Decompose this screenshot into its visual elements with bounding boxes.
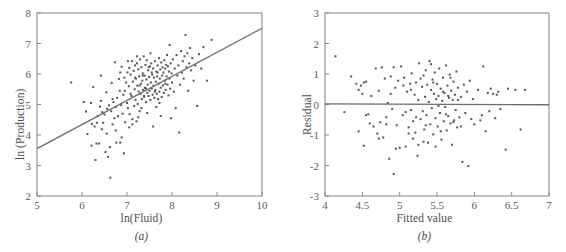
x-tick-label: 8 xyxy=(169,199,175,211)
data-point xyxy=(169,88,171,90)
data-point xyxy=(147,84,149,86)
x-tick-label: 5 xyxy=(34,199,40,211)
data-point xyxy=(153,97,155,99)
data-point xyxy=(455,71,457,73)
plot-frame xyxy=(37,13,262,196)
data-point xyxy=(184,55,186,57)
data-point xyxy=(505,149,507,151)
data-point xyxy=(178,132,180,134)
data-point xyxy=(417,144,419,146)
data-point xyxy=(139,58,141,60)
data-point xyxy=(119,142,121,144)
data-point xyxy=(429,60,431,62)
data-point xyxy=(457,87,459,89)
data-point xyxy=(115,129,117,131)
data-point xyxy=(395,148,397,150)
data-point xyxy=(104,151,106,153)
data-point xyxy=(408,132,410,134)
data-point xyxy=(420,118,422,120)
data-point xyxy=(400,65,402,67)
data-point xyxy=(488,110,490,112)
data-point xyxy=(426,114,428,116)
data-point xyxy=(113,101,115,103)
data-point xyxy=(496,94,498,96)
data-point xyxy=(412,120,414,122)
data-point xyxy=(417,99,419,101)
data-point xyxy=(385,116,387,118)
data-point xyxy=(170,62,172,64)
data-point xyxy=(437,105,439,107)
data-point xyxy=(156,75,158,77)
data-point xyxy=(434,71,436,73)
data-point xyxy=(152,94,154,96)
data-point xyxy=(123,152,125,154)
data-point xyxy=(451,144,453,146)
data-point xyxy=(96,122,98,124)
y-tick-label: 8 xyxy=(26,7,32,19)
data-point xyxy=(432,82,434,84)
data-point xyxy=(156,93,158,95)
x-tick-label: 4 xyxy=(322,199,328,211)
data-point xyxy=(467,165,469,167)
data-point xyxy=(126,71,128,73)
data-point xyxy=(154,60,156,62)
data-point xyxy=(185,34,187,36)
data-point xyxy=(191,57,193,59)
data-point xyxy=(112,123,114,125)
data-point xyxy=(440,139,442,141)
data-point xyxy=(424,96,426,98)
data-point xyxy=(135,120,137,122)
data-point xyxy=(158,102,160,104)
data-point xyxy=(122,113,124,115)
data-point xyxy=(432,133,434,135)
data-point xyxy=(186,52,188,54)
data-point xyxy=(334,55,336,57)
regression-line xyxy=(37,28,262,148)
data-point xyxy=(430,63,432,65)
data-point xyxy=(367,113,369,115)
data-point xyxy=(430,89,432,91)
data-point xyxy=(133,70,135,72)
data-point xyxy=(435,146,437,148)
data-point xyxy=(118,78,120,80)
data-point xyxy=(160,115,162,117)
data-point xyxy=(355,83,357,85)
y-tick-label: 2 xyxy=(26,190,32,202)
data-point xyxy=(90,145,92,147)
data-point xyxy=(117,115,119,117)
data-point xyxy=(378,138,380,140)
panel-b-y-axis-label: Residual xyxy=(301,94,313,135)
data-point xyxy=(161,75,163,77)
data-point xyxy=(149,90,151,92)
data-point xyxy=(102,122,104,124)
data-point xyxy=(125,82,127,84)
data-point xyxy=(136,62,138,64)
data-point xyxy=(490,88,492,90)
data-point xyxy=(129,113,131,115)
data-point xyxy=(163,59,165,61)
data-point xyxy=(131,95,133,97)
data-point xyxy=(446,129,448,131)
data-point xyxy=(132,81,134,83)
data-point xyxy=(444,106,446,108)
data-point xyxy=(150,82,152,84)
panel-a-x-axis-label: ln(Fluid) xyxy=(0,212,283,224)
data-point xyxy=(343,111,345,113)
data-point xyxy=(145,78,147,80)
data-point xyxy=(211,39,213,41)
data-point xyxy=(454,94,456,96)
x-tick-label: 6.5 xyxy=(505,199,519,211)
data-point xyxy=(397,80,399,82)
data-point xyxy=(520,129,522,131)
data-point xyxy=(190,69,192,71)
data-point xyxy=(140,107,142,109)
x-tick-label: 9 xyxy=(214,199,220,211)
data-point xyxy=(391,108,393,110)
data-point xyxy=(381,66,383,68)
data-point xyxy=(135,99,137,101)
scatter-points xyxy=(334,55,526,175)
data-point xyxy=(150,62,152,64)
data-point xyxy=(183,78,185,80)
data-point xyxy=(162,71,164,73)
data-point xyxy=(155,81,157,83)
